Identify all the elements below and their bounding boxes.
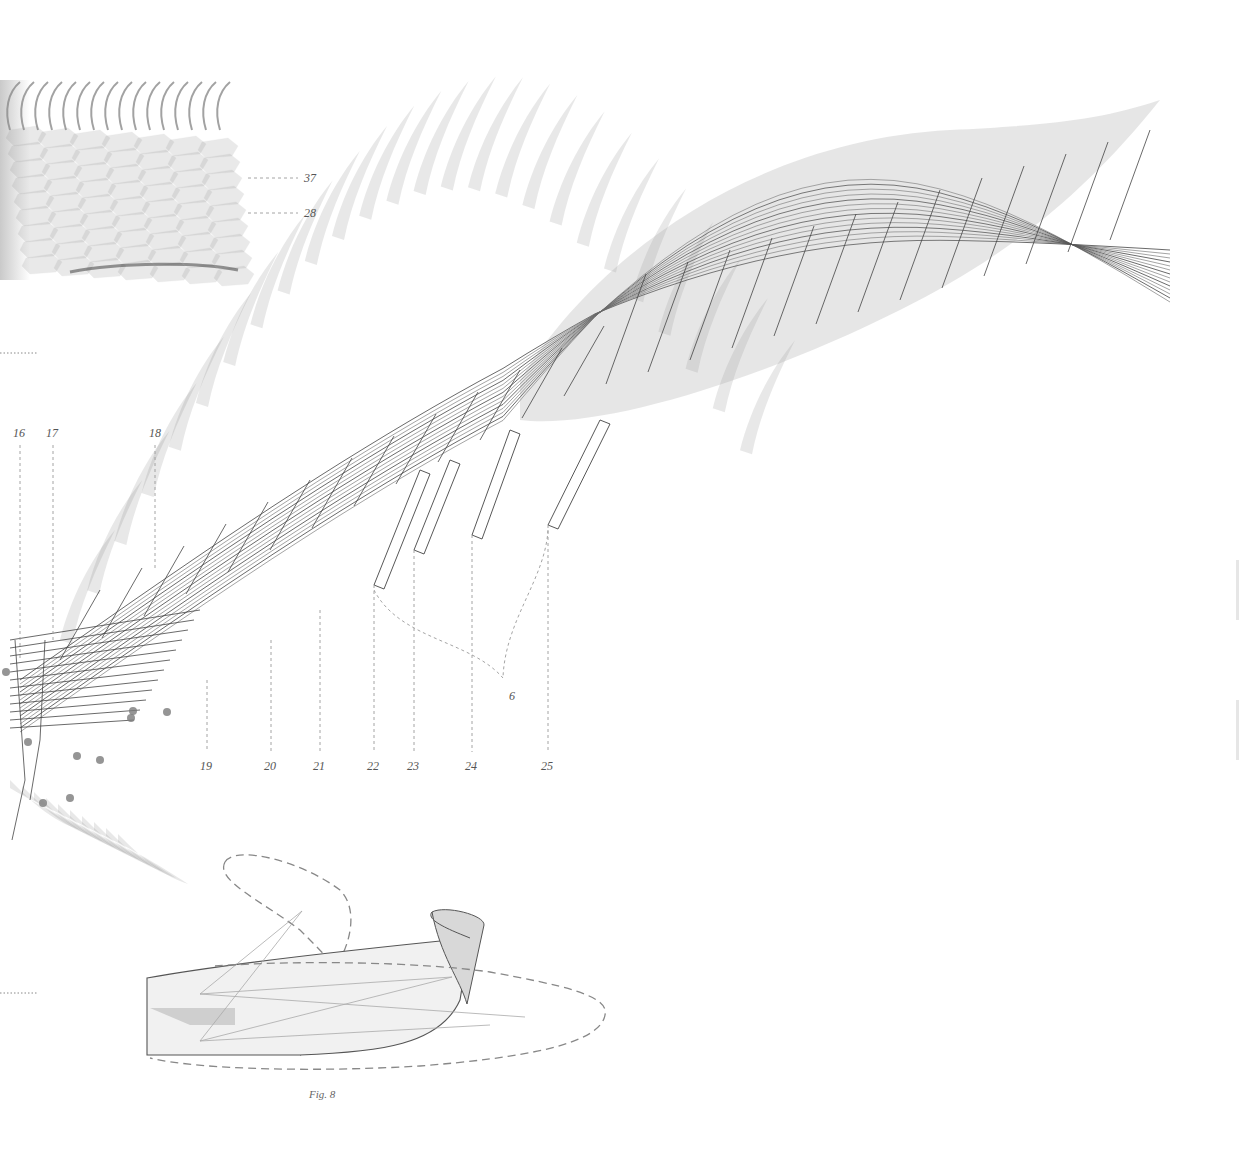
callout-24: 24 (465, 759, 477, 773)
feather (278, 181, 333, 295)
bristle (105, 82, 118, 130)
tangle-line (10, 620, 194, 648)
feather (495, 84, 550, 198)
strut (548, 420, 610, 529)
callout-23: 23 (407, 759, 419, 773)
callout-28: 28 (304, 206, 316, 220)
node-dot (24, 738, 32, 746)
callout-18: 18 (149, 426, 161, 440)
strut (374, 470, 430, 589)
bristle (217, 82, 230, 130)
inset-scale-cluster (0, 80, 254, 286)
tangle-line (10, 710, 140, 720)
callout-21: 21 (313, 759, 325, 773)
inset-left-fade (0, 80, 30, 280)
node-dots (2, 668, 171, 807)
strut (472, 430, 520, 539)
feather (468, 77, 523, 191)
tangle-line (10, 680, 158, 696)
ribbon-rib (186, 524, 226, 594)
bristle (175, 82, 188, 130)
bristle (119, 82, 132, 130)
node-dot (39, 799, 47, 807)
feather (118, 834, 188, 884)
callout-25: 25 (541, 759, 553, 773)
node-dot (73, 752, 81, 760)
node-dot (127, 714, 135, 722)
fig8-surface-body (147, 938, 470, 1055)
bristle (189, 82, 202, 130)
tangle-line (10, 610, 200, 640)
callout-17: 17 (46, 426, 59, 440)
node-dot (163, 708, 171, 716)
fig8-surface-diagram (147, 855, 605, 1069)
callout-22: 22 (367, 759, 379, 773)
callout-19: 19 (200, 759, 212, 773)
bristle (49, 82, 62, 130)
tangle-line (10, 720, 134, 728)
page-bleed-through (1236, 560, 1239, 760)
figure-caption: Fig. 8 (308, 1088, 336, 1100)
bristle (91, 82, 104, 130)
callout-6: 6 (509, 689, 515, 703)
bristle (147, 82, 160, 130)
leader-group-6 (374, 530, 548, 678)
bristle (203, 82, 216, 130)
bristle (77, 82, 90, 130)
diagram-canvas: 37 28 16 17 18 19 20 21 22 23 24 25 6 Fi… (0, 0, 1245, 1155)
bristle (133, 82, 146, 130)
feather (250, 214, 305, 328)
bristle (161, 82, 174, 130)
callout-20: 20 (264, 759, 276, 773)
node-dot (96, 756, 104, 764)
node-dot (66, 794, 74, 802)
ribbon-rib (438, 392, 478, 462)
scale (198, 138, 238, 158)
node-dot (2, 668, 10, 676)
callout-16: 16 (13, 426, 25, 440)
callout-37: 37 (303, 171, 317, 185)
bristle (63, 82, 76, 130)
bristle (35, 82, 48, 130)
ribbon-rib (480, 370, 520, 440)
node-dot (129, 707, 137, 715)
